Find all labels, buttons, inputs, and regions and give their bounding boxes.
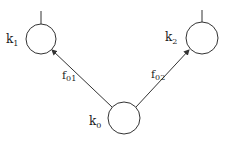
node-k1: k1: [6, 11, 56, 54]
f01-arrow: [52, 50, 112, 107]
k0-label: k0: [89, 114, 101, 130]
k1-circle: [26, 24, 56, 54]
f02-label: f02: [151, 68, 165, 82]
edge-f02: f02: [136, 50, 189, 107]
k1-label: k1: [6, 32, 18, 48]
node-k2: k2: [165, 10, 218, 54]
edge-f01: f01: [52, 50, 112, 107]
k2-label: k2: [165, 30, 177, 46]
k0-circle: [108, 102, 140, 134]
graph-svg: k1 k2 k0 f01 f02: [0, 0, 226, 143]
node-k0: k0: [89, 102, 140, 134]
diagram-canvas: k1 k2 k0 f01 f02: [0, 0, 226, 143]
k2-circle: [186, 22, 218, 54]
